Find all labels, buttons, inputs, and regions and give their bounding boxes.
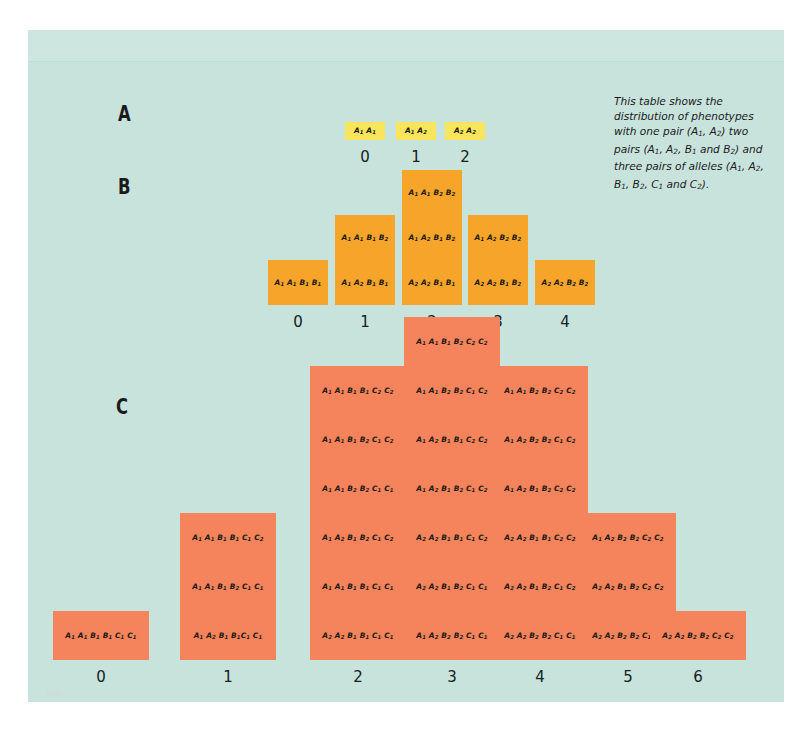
bar: A1 A1 B1 B1 C2 C2A1 A1 B1 B2 C1 C2A1 A1 … [310,366,406,660]
axis-tick-label: 4 [510,668,570,686]
chart-c: A1 A1 B1 B1 C1 C10A1 A1 B1 B1 C1 C2A1 A1… [28,30,784,702]
bar-column: A2 A2 B2 B2 C2 C2 [650,611,746,660]
axis-tick-label: 2 [328,668,388,686]
bar: A1 A1 B1 B1 C1 C2A1 A1 B1 B2 C1 C1A1 A2 … [180,513,276,660]
axis-tick-label: 3 [422,668,482,686]
bar: A1 A1 B2 B2 C2 C2A1 A2 B2 B2 C1 C2A1 A2 … [492,366,588,660]
bar: A1 A1 B1 B2 C2 C2A1 A1 B2 B2 C1 C2A1 A2 … [404,317,500,660]
genotype-cell: A2 A2 B1 B1 C2 C2 [504,534,575,542]
genotype-cell: A1 A1 B1 B2 C1 C2 [322,436,393,444]
genotype-cell: A1 A2 B2 B2 C1 C1 [416,632,487,640]
bar-column: A1 A1 B1 B1 C1 C1 [53,611,149,660]
genotype-cell: A1 A1 B1 B1 C2 C2 [322,387,393,395]
genotype-cell: A1 A1 B1 B2 C2 C2 [416,338,487,346]
bar-column: A1 A1 B1 B2 C2 C2A1 A1 B2 B2 C1 C2A1 A2 … [404,317,500,660]
genotype-cell: A1 A2 B2 B2 C1 C2 [504,436,575,444]
genotype-cell: A2 A2 B1 B1 C1 C2 [416,534,487,542]
genotype-cell: A1 A2 B1 B2 C1 C2 [416,485,487,493]
genotype-cell: A1 A1 B1 B2 C1 C1 [192,583,263,591]
axis-tick-label: 5 [598,668,658,686]
genotype-cell: A1 A1 B2 B2 C2 C2 [504,387,575,395]
genotype-cell: A1 A1 B1 B1 C1 C2 [192,534,263,542]
bar: A1 A1 B1 B1 C1 C1 [53,611,149,660]
genotype-cell: A2 A2 B2 B2 C2 C2 [662,632,733,640]
axis-tick-label: 6 [668,668,728,686]
genotype-cell: A2 A2 B1 B2 C2 C2 [592,583,663,591]
corner-mark: 129 [46,690,61,698]
figure-panel: A B C This table shows the distribution … [28,30,784,702]
genotype-cell: A1 A1 B1 B1 C1 C1 [322,583,393,591]
genotype-cell: A1 A1 B1 B1 C1 C1 [65,632,136,640]
genotype-cell: A1 A2 B2 B2 C2 C2 [592,534,663,542]
bar-column: A1 A1 B1 B1 C2 C2A1 A1 B1 B2 C1 C2A1 A1 … [310,366,406,660]
bar-column: A1 A1 B2 B2 C2 C2A1 A2 B2 B2 C1 C2A1 A2 … [492,366,588,660]
genotype-cell: A1 A2 B1 B1C1 C1 [194,632,263,640]
genotype-cell: A1 A1 B2 B2 C1 C2 [416,387,487,395]
genotype-cell: A1 A2 B1 B2 C2 C2 [504,485,575,493]
genotype-cell: A2 A2 B1 B1 C1 C1 [322,632,393,640]
genotype-cell: A1 A2 B1 B2 C1 C2 [322,534,393,542]
axis-tick-label: 1 [198,668,258,686]
genotype-cell: A1 A1 B2 B2 C1 C1 [322,485,393,493]
bar-column: A1 A1 B1 B1 C1 C2A1 A1 B1 B2 C1 C1A1 A2 … [180,513,276,660]
genotype-cell: A2 A2 B2 B2 C1 C1 [504,632,575,640]
bar: A2 A2 B2 B2 C2 C2 [650,611,746,660]
genotype-cell: A1 A2 B1 B1 C2 C2 [416,436,487,444]
genotype-cell: A2 A2 B1 B2 C1 C2 [504,583,575,591]
genotype-cell: A2 A2 B1 B2 C1 C1 [416,583,487,591]
axis-tick-label: 0 [71,668,131,686]
